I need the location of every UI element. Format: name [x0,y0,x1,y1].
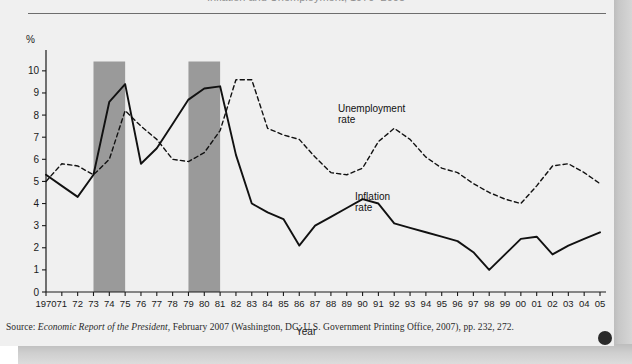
x-tick-label: 92 [389,298,400,309]
x-tick-label: 1970 [35,298,56,309]
source-publication-title: Economic Report of the President [38,322,168,332]
x-tick-label: 81 [215,298,226,309]
page-marker-dot-icon [598,331,612,345]
x-tick-label: 77 [152,298,163,309]
y-tick-label: 7 [33,132,39,143]
line-chart-svg: 0123456789101970717273747576777879808182… [0,20,614,320]
x-tick-label: 98 [484,298,495,309]
y-tick-label: 6 [33,154,39,165]
x-tick-label: 85 [278,298,289,309]
x-tick-label: 94 [421,298,432,309]
y-tick-label: 3 [33,220,39,231]
x-tick-label: 74 [104,298,115,309]
x-tick-label: 73 [88,298,99,309]
unemployment-rate-annotation-line2: rate [338,114,356,125]
x-tick-label: 84 [262,298,273,309]
x-tick-label: 87 [310,298,321,309]
x-tick-label: 97 [468,298,479,309]
page-edge-shadow-right [612,0,632,356]
x-tick-label: 86 [294,298,305,309]
figure-page: Inflation and Unemployment, 1970–2005 % … [0,0,632,364]
recession-1973-75-band [93,62,125,293]
x-tick-label: 95 [436,298,447,309]
chart-plot-area: % Year 012345678910197071727374757677787… [0,20,614,320]
x-tick-label: 75 [120,298,131,309]
inflation-rate-annotation-line2: rate [355,202,373,213]
x-tick-label: 00 [516,298,527,309]
x-tick-label: 05 [595,298,606,309]
source-prefix: Source: [6,322,38,332]
x-tick-label: 83 [246,298,257,309]
y-tick-label: 5 [33,176,39,187]
x-tick-label: 78 [167,298,178,309]
x-tick-label: 88 [326,298,337,309]
x-tick-label: 96 [452,298,463,309]
x-tick-label: 99 [500,298,511,309]
paper-surface: Inflation and Unemployment, 1970–2005 % … [0,0,614,346]
source-note: Source: Economic Report of the President… [6,322,606,332]
title-divider-rule [28,13,606,14]
x-tick-label: 71 [57,298,68,309]
y-tick-label: 10 [28,65,40,76]
unemployment-rate-line [46,80,600,204]
x-tick-label: 80 [199,298,210,309]
y-tick-label: 1 [33,264,39,275]
x-tick-label: 01 [531,298,542,309]
x-tick-label: 72 [72,298,83,309]
x-tick-label: 91 [373,298,384,309]
x-tick-label: 93 [405,298,416,309]
x-tick-label: 82 [231,298,242,309]
x-tick-label: 04 [579,298,590,309]
inflation-rate-annotation-line1: Inflation [355,191,390,202]
x-tick-label: 76 [136,298,147,309]
x-tick-label: 90 [357,298,368,309]
y-tick-label: 8 [33,110,39,121]
inflation-rate-line [46,84,600,270]
page-edge-shadow-bottom [18,344,632,364]
x-tick-label: 02 [547,298,558,309]
y-tick-label: 2 [33,242,39,253]
figure-title-clipped: Inflation and Unemployment, 1970–2005 [0,0,612,9]
source-rest: , February 2007 (Washington, DC: U.S. Go… [168,322,514,332]
y-tick-label: 0 [33,287,39,298]
x-tick-label: 03 [563,298,574,309]
unemployment-rate-annotation-line1: Unemployment [338,103,405,114]
x-tick-label: 79 [183,298,194,309]
x-tick-label: 89 [341,298,352,309]
figure-title-text: Inflation and Unemployment, 1970–2005 [0,0,612,3]
y-tick-label: 9 [33,87,39,98]
y-tick-label: 4 [33,198,39,209]
